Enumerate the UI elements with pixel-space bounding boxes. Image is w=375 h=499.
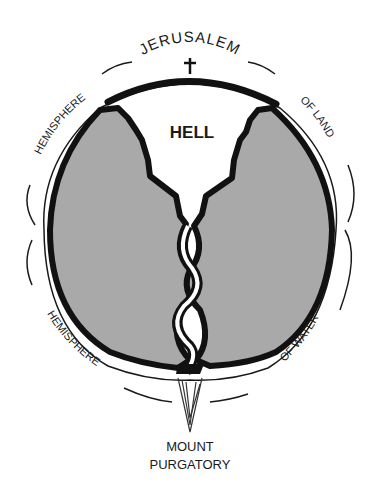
mount-purgatory-shape bbox=[178, 378, 202, 432]
label-hell: HELL bbox=[170, 123, 214, 142]
label-purgatory: PURGATORY bbox=[150, 457, 231, 472]
dante-universe-diagram: JERUSALEM HEMISPHERE OF LAND HEMISPHERE … bbox=[0, 0, 375, 499]
label-mount: MOUNT bbox=[166, 439, 214, 454]
label-jerusalem: JERUSALEM bbox=[136, 28, 244, 58]
cross-icon bbox=[184, 58, 196, 74]
